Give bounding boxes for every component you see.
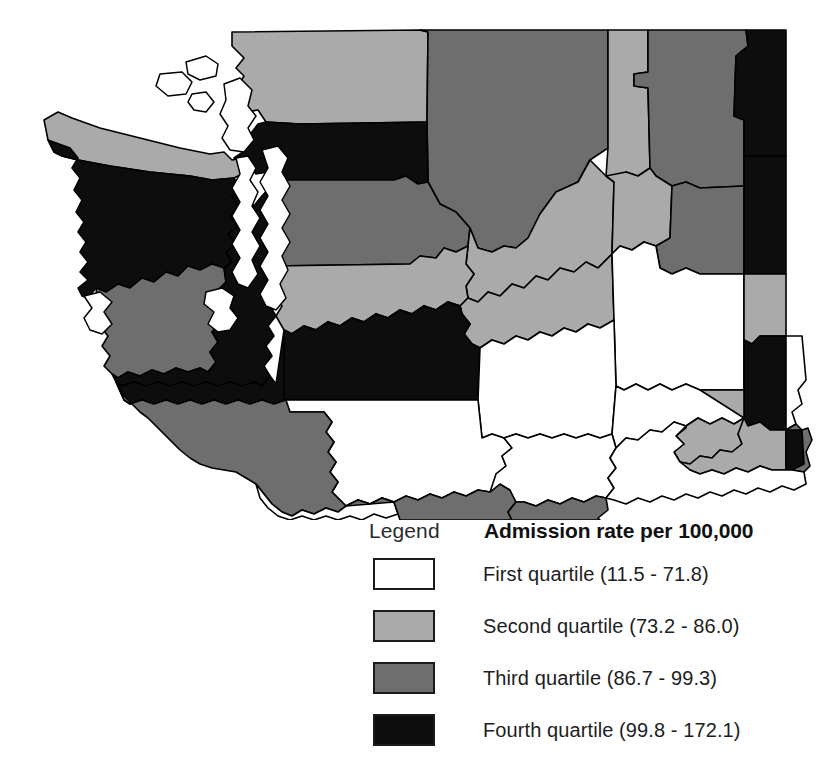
legend-caption: Legend xyxy=(369,518,440,543)
washington-county-map xyxy=(0,0,829,520)
legend-label-second-quartile: Second quartile (73.2 - 86.0) xyxy=(483,613,739,639)
choropleth-map-figure xyxy=(0,0,829,520)
county-whitman[interactable] xyxy=(744,336,786,430)
legend-swatch-fourth-quartile xyxy=(373,714,435,746)
legend-label-fourth-quartile: Fourth quartile (99.8 - 172.1) xyxy=(483,717,741,743)
legend-title: Admission rate per 100,000 xyxy=(484,518,753,543)
county-stevens[interactable] xyxy=(634,30,748,188)
legend-header: Legend Admission rate per 100,000 xyxy=(362,518,822,554)
county-adams[interactable] xyxy=(744,274,786,344)
county-columbia[interactable] xyxy=(786,430,804,470)
water-inlet-san-juan-b xyxy=(156,72,192,96)
water-inlet-san-juan-c xyxy=(188,92,214,112)
water-inlet-san-juan-a xyxy=(186,56,218,80)
legend-label-third-quartile: Third quartile (86.7 - 99.3) xyxy=(483,665,717,691)
legend-swatch-first-quartile xyxy=(373,558,435,590)
county-whatcom[interactable] xyxy=(232,30,428,124)
county-spokane[interactable] xyxy=(744,156,786,274)
county-douglas[interactable] xyxy=(606,168,672,254)
legend-swatch-third-quartile xyxy=(373,662,435,694)
county-garfield[interactable] xyxy=(786,336,806,430)
water-inlet-island xyxy=(220,78,256,152)
legend-swatch-second-quartile xyxy=(373,610,435,642)
legend-label-first-quartile: First quartile (11.5 - 71.8) xyxy=(483,561,709,587)
county-ferry[interactable] xyxy=(606,30,650,182)
map-legend: Legend Admission rate per 100,000 First … xyxy=(362,518,822,760)
